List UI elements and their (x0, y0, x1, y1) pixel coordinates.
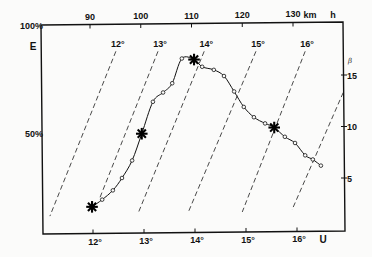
right-axis-tick-label: 15 (347, 71, 357, 81)
top-axis-tick-label: 100 (133, 11, 148, 21)
asterisk-marker (268, 122, 280, 134)
left-axis: 100%50%E (20, 21, 43, 139)
right-axis-tick-label: 5 (347, 174, 352, 184)
top-axis-unit: km (303, 10, 316, 20)
left-axis-label: E (30, 41, 37, 52)
bottom-axis-tick-label: 15° (241, 235, 255, 245)
circle-marker (293, 141, 297, 145)
bottom-axis-tick-label: 16° (292, 234, 306, 244)
circle-marker (222, 74, 226, 78)
isoline-label: 12° (111, 39, 125, 49)
circle-marker (311, 158, 315, 162)
data-curve (92, 57, 321, 207)
circle-marker (303, 154, 307, 158)
circle-marker (263, 122, 267, 126)
asterisk-marker (86, 201, 98, 213)
right-axis-label: β (347, 57, 352, 65)
circle-marker (151, 100, 155, 104)
top-axis: 90100110120130kmh (85, 9, 336, 28)
isoline (50, 51, 116, 216)
top-axis-label: h (330, 10, 336, 20)
bottom-axis-label: U (319, 234, 326, 245)
chart: 12°13°14°15°16°90100110120130kmh12°13°14… (0, 0, 372, 257)
isoline-label: 13° (153, 39, 167, 49)
asterisk-marker (136, 128, 148, 140)
circle-marker (252, 115, 256, 119)
circle-marker (200, 65, 204, 69)
left-axis-tick-label: 50% (25, 129, 43, 139)
circle-marker (180, 57, 184, 61)
bottom-axis-tick-label: 14° (190, 235, 204, 245)
top-axis-tick-label: 120 (235, 10, 250, 20)
circle-marker (232, 90, 236, 94)
bottom-axis: 12°13°14°15°16°U (88, 227, 326, 246)
isoline-label: 16° (300, 39, 314, 49)
data-series (86, 54, 322, 213)
top-axis-tick-label: 110 (184, 11, 199, 21)
circle-marker (242, 105, 246, 109)
circle-marker (319, 164, 323, 168)
isoline (99, 51, 158, 199)
circle-marker (170, 81, 174, 85)
circle-marker (212, 68, 216, 72)
bottom-axis-tick-label: 12° (88, 237, 102, 247)
top-axis-tick-label: 90 (85, 12, 95, 22)
circle-marker (161, 91, 165, 95)
right-axis-tick-label: 10 (347, 122, 357, 132)
circle-marker (130, 159, 134, 163)
bottom-axis-tick-label: 13° (139, 236, 153, 246)
circle-marker (100, 198, 104, 202)
circle-marker (111, 189, 115, 193)
asterisk-marker (188, 54, 200, 66)
left-axis-tick-label: 100% (20, 21, 43, 31)
isoline (292, 93, 343, 210)
isoline-label: 14° (199, 39, 213, 49)
circle-marker (120, 176, 124, 180)
top-axis-tick-label: 130 (285, 9, 300, 19)
circle-marker (283, 135, 287, 139)
figure: 12°13°14°15°16°90100110120130kmh12°13°14… (0, 0, 372, 257)
isoline-label: 15° (251, 39, 265, 49)
isolines: 12°13°14°15°16° (50, 39, 343, 216)
